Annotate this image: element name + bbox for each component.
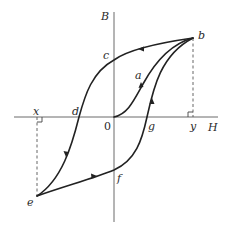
arrow-icon-bc: [138, 47, 144, 52]
point-label-y: y: [189, 120, 197, 133]
point-label-c: c: [103, 49, 109, 62]
h-axis-label: H: [207, 121, 218, 134]
point-label-d: d: [72, 105, 79, 118]
b-axis-label: B: [100, 10, 109, 23]
point-label-x: x: [33, 105, 40, 118]
hysteresis-loop-diagram: B H 0 a b c d e f g x y: [0, 0, 234, 233]
point-label-g: g: [148, 120, 155, 133]
point-label-a: a: [135, 69, 142, 82]
origin-label: 0: [104, 120, 111, 133]
initial-magnetization-curve: [114, 38, 193, 117]
right-angle-marker-y: [188, 112, 193, 117]
point-label-f: f: [116, 172, 123, 185]
point-label-b: b: [198, 29, 205, 42]
point-label-e: e: [27, 196, 34, 209]
